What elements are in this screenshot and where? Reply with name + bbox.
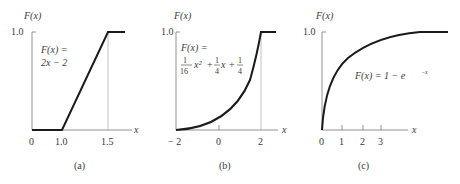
panel-c-cdf-curve [322, 32, 448, 130]
panel-c-x-axis-label: x [411, 124, 417, 135]
panel-a-x-tick-2: 1.5 [101, 136, 114, 147]
panel-c-x-tick-1: 1 [339, 136, 344, 147]
svg-text:1: 1 [238, 56, 242, 65]
panel-a-y-axis-label: F(x) [23, 10, 42, 22]
panel-b-caption: (b) [219, 160, 231, 172]
panel-b-x-tick-1: 0 [216, 136, 221, 147]
panel-a: F(x) 1.0 x 0 1.0 1.5 F(x) = 2x − 2 (a) [11, 10, 139, 172]
panel-b-x-axis-label: x [281, 124, 287, 135]
svg-text:−x: −x [421, 69, 428, 75]
panel-b: F(x) 1.0 x − 2 0 2 F(x) = 1 16 x² + 1 4 … [161, 10, 287, 172]
panel-a-formula-line1: F(x) = [40, 44, 67, 56]
svg-text:16: 16 [180, 67, 188, 76]
svg-text:1: 1 [183, 56, 187, 65]
svg-text:x: x [220, 59, 226, 70]
svg-text:4: 4 [238, 67, 242, 76]
panel-a-x-tick-1: 1.0 [55, 136, 68, 147]
svg-text:1: 1 [215, 56, 219, 65]
panel-c-x-tick-0: 0 [319, 136, 324, 147]
panel-b-x-tick-2: 2 [258, 136, 263, 147]
svg-text:4: 4 [215, 67, 219, 76]
panel-a-x-axis-label: x [133, 124, 139, 135]
panel-b-y-axis-label: F(x) [173, 10, 192, 22]
panel-c-formula: F(x) = 1 − e −x [354, 69, 428, 82]
svg-text:F(x) = 1 − e: F(x) = 1 − e [354, 70, 406, 82]
panel-b-x-tick-0: − 2 [168, 136, 181, 147]
panel-a-x-tick-0: 0 [29, 136, 34, 147]
panel-a-caption: (a) [74, 160, 85, 172]
svg-text:+: + [207, 59, 213, 70]
panel-c-x-tick-2: 2 [360, 136, 365, 147]
panel-a-y-tick-1: 1.0 [11, 26, 24, 37]
panel-c-y-axis-label: F(x) [315, 10, 334, 22]
svg-text:+: + [229, 59, 235, 70]
cdf-figure: F(x) 1.0 x 0 1.0 1.5 F(x) = 2x − 2 (a) F… [0, 0, 460, 184]
panel-b-formula-line1: F(x) = [180, 42, 207, 54]
panel-c-x-tick-3: 3 [378, 136, 383, 147]
panel-c-caption: (c) [358, 160, 369, 172]
panel-a-formula-line2: 2x − 2 [41, 57, 67, 68]
panel-c-y-tick-1: 1.0 [303, 26, 316, 37]
svg-text:x²: x² [193, 59, 202, 70]
panel-b-y-tick-1: 1.0 [161, 26, 174, 37]
panel-b-formula-line2: 1 16 x² + 1 4 x + 1 4 [180, 56, 243, 76]
panel-c: F(x) 1.0 x 0 1 2 3 F(x) = 1 − e −x (c) [303, 10, 448, 172]
